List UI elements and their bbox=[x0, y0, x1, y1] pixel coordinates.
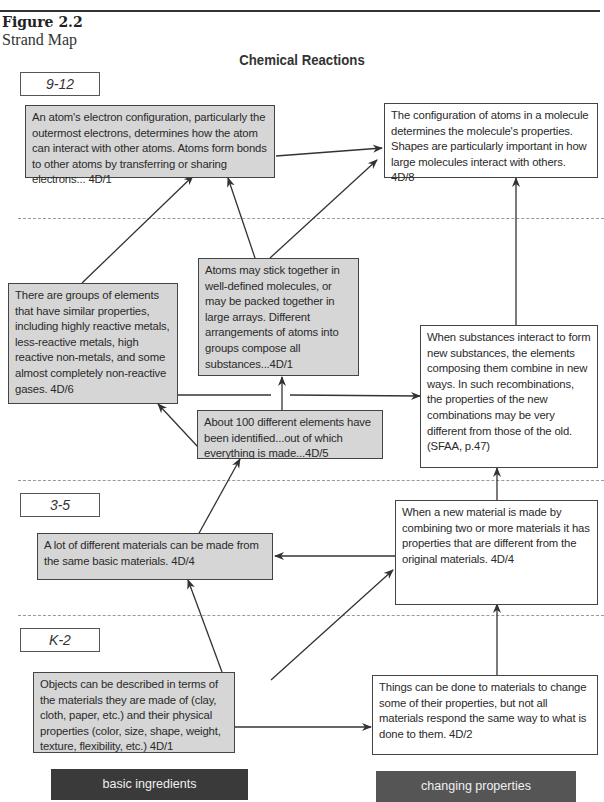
legend-changing-properties: changing properties bbox=[376, 771, 576, 802]
edge-materials-to-elements bbox=[198, 459, 240, 535]
edge-atoms-to-electron bbox=[228, 178, 255, 258]
edge-electron-to-molecule bbox=[276, 148, 382, 156]
node-new-material: When a new material is made by combining… bbox=[395, 500, 598, 605]
edge-objects-to-newmaterial bbox=[271, 570, 393, 680]
node-substances-interact: When substances interact to form new sub… bbox=[420, 325, 598, 468]
node-objects-described: Objects can be described in terms of the… bbox=[33, 672, 235, 753]
node-molecule-configuration: The configuration of atoms in a molecule… bbox=[384, 103, 598, 178]
edge-elements-to-groups bbox=[158, 404, 198, 447]
edge-groups-to-electron bbox=[82, 176, 193, 283]
node-electron-configuration: An atom's electron configuration, partic… bbox=[25, 105, 275, 178]
node-atoms-stick-together: Atoms may stick together in well-defined… bbox=[198, 258, 359, 376]
node-different-materials: A lot of different materials can be made… bbox=[37, 533, 273, 580]
node-element-groups: There are groups of elements that have s… bbox=[8, 283, 178, 404]
edge-groups-to-substances-b bbox=[290, 395, 420, 396]
node-100-elements: About 100 different elements have been i… bbox=[197, 410, 383, 459]
legend-basic-ingredients: basic ingredients bbox=[51, 769, 248, 800]
edge-objects-to-materials bbox=[188, 580, 222, 672]
node-things-done-to-materials: Things can be done to materials to chang… bbox=[372, 675, 598, 755]
edge-atoms-to-molecule bbox=[270, 160, 377, 258]
